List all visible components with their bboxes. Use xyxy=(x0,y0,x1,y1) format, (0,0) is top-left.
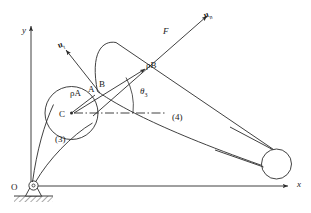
force-f-label: F xyxy=(163,27,169,36)
theta3-label: θ3 xyxy=(140,87,147,98)
diagram-canvas xyxy=(0,0,311,213)
y-axis-label: y xyxy=(22,26,26,35)
pivot-pin-inner xyxy=(32,184,35,187)
link3-tangent-right xyxy=(36,123,93,182)
ground-hatching xyxy=(14,196,53,202)
link4-group xyxy=(95,42,291,179)
rho-b-label: ρB xyxy=(146,61,157,70)
rho-b-vector xyxy=(74,69,145,113)
ground-support-group xyxy=(14,181,53,202)
point-c-label: C xyxy=(59,110,65,119)
rho-b-group xyxy=(74,69,145,113)
link4-lower-edge-tail xyxy=(215,150,264,167)
link4-upper-edge xyxy=(95,42,275,150)
origin-label: O xyxy=(11,183,18,192)
theta3-group xyxy=(126,78,133,114)
point-a-label: A xyxy=(88,85,95,94)
link4-label: (4) xyxy=(172,113,183,122)
theta3-subscript: 3 xyxy=(144,92,147,98)
link4-upper-edge-tail xyxy=(230,127,273,150)
kinematics-diagram: y x O C A B ρA ρB θ3 F (3) (4) ut un xyxy=(0,0,311,213)
theta3-arc xyxy=(126,78,133,114)
rho-a-label: ρA xyxy=(70,89,81,98)
point-b-label: B xyxy=(99,80,105,89)
link3-label: (3) xyxy=(55,135,66,144)
link4-end-circle xyxy=(262,149,292,179)
link4-lower-edge xyxy=(98,92,263,166)
x-axis-label: x xyxy=(297,180,301,189)
